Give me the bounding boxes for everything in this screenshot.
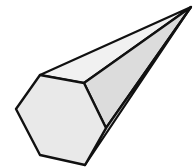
pyramid-drawing (0, 0, 193, 168)
hexagonal-pyramid-figure: Hexagonal pyramid (0, 0, 193, 168)
